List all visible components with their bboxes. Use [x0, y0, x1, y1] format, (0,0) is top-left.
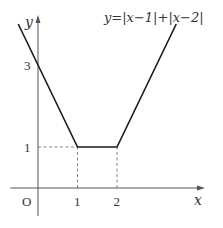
y-axis-arrow-icon	[36, 15, 41, 23]
y-tick-label: 1	[24, 140, 31, 155]
labels: y=|x−1|+|x−2| x y O	[22, 10, 204, 209]
x-axis-label: x	[194, 192, 202, 208]
function-curve	[18, 24, 176, 147]
x-tick-label: 1	[74, 194, 81, 209]
function-label: y=|x−1|+|x−2|	[103, 10, 204, 25]
axes	[10, 15, 205, 216]
function-graph: y=|x−1|+|x−2| x y O 1213	[0, 0, 223, 228]
guide-lines	[38, 147, 117, 188]
origin-label: O	[22, 194, 31, 209]
x-axis-arrow-icon	[197, 186, 205, 191]
x-tick-label: 2	[114, 194, 121, 209]
y-tick-label: 3	[24, 58, 31, 73]
y-axis-label: y	[24, 14, 34, 30]
